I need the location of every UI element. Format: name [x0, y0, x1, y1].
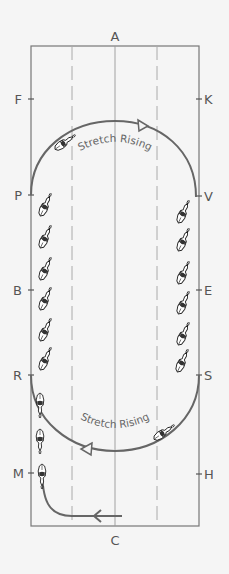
- letter-h: H: [204, 467, 214, 482]
- letter-s: S: [204, 368, 212, 383]
- horse-icon: [37, 224, 54, 250]
- letter-r: R: [13, 368, 22, 383]
- horse-icon: [152, 422, 177, 443]
- horse-icon: [175, 321, 192, 347]
- horse-icon: [38, 464, 46, 489]
- horse-icon: [175, 199, 192, 225]
- letter-v: V: [204, 189, 213, 204]
- letter-e: E: [204, 283, 212, 298]
- horse-icon: [37, 346, 54, 372]
- horse-icon: [37, 286, 54, 312]
- final-path: [42, 467, 122, 516]
- arena-diagram: A C F P B R M K V E S H Stretch Rising S…: [0, 0, 229, 574]
- horse-icon: [37, 192, 54, 218]
- horse-icon: [174, 348, 191, 374]
- letter-k: K: [204, 92, 213, 107]
- horse-icon: [175, 227, 192, 253]
- letter-p: P: [14, 188, 22, 203]
- horse-icon: [36, 429, 44, 454]
- horse-icon: [37, 317, 54, 343]
- letter-a: A: [111, 29, 120, 44]
- horse-icon: [37, 256, 54, 282]
- letter-c: C: [110, 533, 119, 548]
- letter-f: F: [15, 92, 22, 107]
- horse-icon: [175, 290, 192, 316]
- horse-icon: [175, 260, 192, 286]
- arena-svg: A C F P B R M K V E S H Stretch Rising S…: [0, 0, 229, 574]
- letter-b: B: [13, 283, 22, 298]
- letter-m: M: [13, 466, 24, 481]
- top-circle-arrow-icon: [138, 120, 148, 131]
